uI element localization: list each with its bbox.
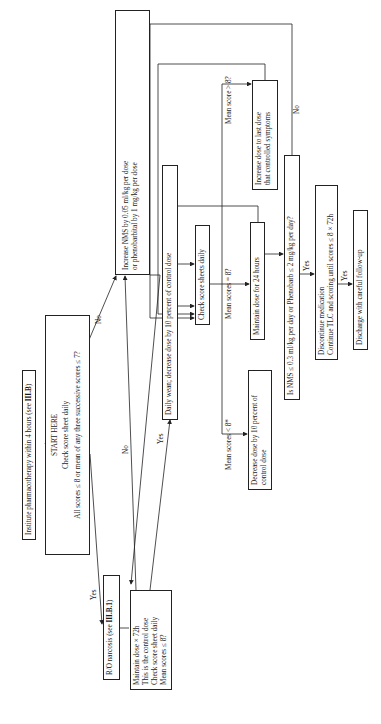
increase-last-line1: Increase dose to last dose [255,85,264,185]
is-nms-text: Is NMS ≤ 0.3 ml/kg per day or Phenobarb … [287,216,295,395]
mean-lt-8-label: Mean scores < 8* [225,419,234,470]
no-label-nms: No [293,105,302,114]
decrease-dose-line1: Decrease dose by 10 percent of [251,375,260,485]
start-line1: Check score sheet daily [62,320,71,550]
ro-narcosis-box: R/O narcosis (see III.B.1) [103,575,120,680]
yes-label-nms: Yes [303,261,312,271]
no-label-maintain: No [122,445,131,454]
ro-narcosis-ref: III.B.1 [106,602,114,622]
ro-narcosis-close: ) [106,600,114,602]
increase-nms-line1: Increase NMS by 0.05 ml/kg per dose [122,15,131,270]
institute-pharmacotherapy-box: Institute pharmacotherapy within 4 hours… [22,370,36,540]
increase-nms-line2: or phenobarbital by 1 mg/kg per dose [131,15,140,270]
maintain-72h-box: Maintain dose × 72h This is the control … [130,590,172,690]
maintain-72-line3: Check score sheet daily [151,595,160,685]
institute-close: ) [25,384,33,386]
maintain-72-line1: Maintain dose × 72h [133,595,142,685]
daily-wean-box: Daily wean; decrease dose by 10 percent … [162,165,178,420]
decrease-dose-box: Decrease dose by 10 percent of control d… [248,370,272,490]
mean-eq-8-label: Mean scores = 8? [225,268,234,319]
decrease-dose-line2: control dose [260,375,269,485]
increase-last-dose-box: Increase dose to last dose that controll… [252,80,278,190]
check-daily-text: Check score sheets daily [198,249,206,320]
no-label-start: No [95,315,104,324]
maintain-24h-box: Maintain dose for 24 hours [250,222,265,340]
increase-last-line2: that controlled symptoms [264,85,273,185]
maintain-72-line2: This is the control dose [142,595,151,685]
check-score-sheets-box: Check score sheets daily [195,225,210,325]
institute-ref: III.B [25,386,33,401]
yes-label-start: Yes [90,590,99,600]
maintain-72-line4: Mean scores ≤ 8? [160,595,169,685]
discharge-text: Discharge with careful follow-up [356,250,364,345]
discontinue-box: Discontinue medication Continue TLC and … [315,185,338,360]
discharge-box: Discharge with careful follow-up [353,210,368,350]
mean-gt-8-label: Mean score > 8? [225,76,234,124]
start-here-box: START HERE Check score sheet daily All s… [45,315,90,555]
increase-nms-box: Increase NMS by 0.05 ml/kg per dose or p… [115,10,150,275]
start-line2: All scores ≤ 8 or mean of any three succ… [74,320,83,550]
maintain-24-text: Maintain dose for 24 hours [253,257,261,335]
daily-wean-text: Daily wean; decrease dose by 10 percent … [165,253,173,415]
flowchart-canvas: Institute pharmacotherapy within 4 hours… [0,0,381,724]
start-title: START HERE [51,320,60,550]
yes-label-maintain: Yes [157,434,166,444]
yes-label-discontinue: Yes [341,271,350,281]
discontinue-line1: Discontinue medication [318,190,327,355]
discontinue-line2: Continue TLC and scoring until scores ≤ … [327,190,336,355]
is-nms-threshold-box: Is NMS ≤ 0.3 ml/kg per day or Phenobarb … [284,155,300,400]
ro-narcosis-text: R/O narcosis (see [106,623,114,676]
institute-text: Institute pharmacotherapy within 4 hours… [25,401,33,535]
